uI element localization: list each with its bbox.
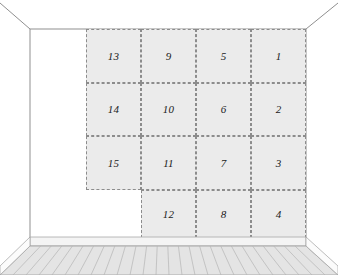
ceiling-edge-left <box>0 3 30 29</box>
panel-cell[interactable]: 9 <box>141 29 196 83</box>
panel-label: 6 <box>221 104 227 115</box>
panel-label: 15 <box>108 158 119 169</box>
room-scene: 13 9 5 1 14 10 6 2 15 11 7 <box>0 0 338 275</box>
panel-label: 4 <box>276 209 282 220</box>
panel-cell[interactable]: 5 <box>196 29 251 83</box>
baseboard <box>30 237 306 246</box>
panel-label: 2 <box>276 104 282 115</box>
panel-cell[interactable]: 11 <box>141 136 196 190</box>
panel-cell[interactable]: 12 <box>141 190 196 238</box>
panel-label: 1 <box>276 51 282 62</box>
panel-cell[interactable]: 6 <box>196 83 251 136</box>
panel-cell[interactable]: 15 <box>86 136 141 190</box>
panel-label: 5 <box>221 51 227 62</box>
panel-cell[interactable]: 14 <box>86 83 141 136</box>
panel-label: 13 <box>108 51 119 62</box>
panel-label: 9 <box>166 51 172 62</box>
panel-cell[interactable]: 2 <box>251 83 306 136</box>
panel-label: 8 <box>221 209 227 220</box>
panel-cell[interactable]: 10 <box>141 83 196 136</box>
panel-label: 7 <box>221 158 227 169</box>
panel-cell[interactable]: 4 <box>251 190 306 238</box>
panel-label: 10 <box>163 104 174 115</box>
panel-cell[interactable]: 13 <box>86 29 141 83</box>
panel-label: 12 <box>163 209 174 220</box>
panel-grid: 13 9 5 1 14 10 6 2 15 11 7 <box>86 29 306 238</box>
floor <box>0 236 338 275</box>
panel-cell[interactable]: 8 <box>196 190 251 238</box>
panel-label: 11 <box>163 158 174 169</box>
panel-label: 14 <box>108 104 119 115</box>
panel-label: 3 <box>276 158 282 169</box>
panel-cell[interactable]: 3 <box>251 136 306 190</box>
ceiling-edge-right <box>306 3 338 29</box>
panel-cell[interactable]: 1 <box>251 29 306 83</box>
panel-cell[interactable]: 7 <box>196 136 251 190</box>
